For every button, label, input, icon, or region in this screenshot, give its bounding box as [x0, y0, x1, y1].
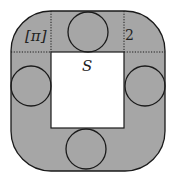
corner-label-pi: [π] [25, 27, 47, 45]
square-label-s: S [82, 57, 92, 75]
diagram-canvas: [π] 2 S [0, 0, 173, 175]
diagram-svg: [π] 2 S [0, 0, 173, 175]
side-label-2: 2 [125, 27, 134, 43]
